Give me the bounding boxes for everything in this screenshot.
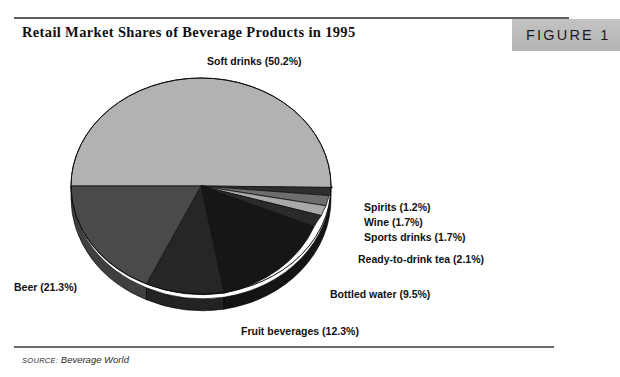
pie-chart-svg — [0, 0, 620, 340]
pie-chart: Soft drinks (50.2%) Beer (21.3%) Fruit b… — [0, 0, 620, 340]
label-spirits: Spirits (1.2%) — [364, 201, 431, 213]
label-beer: Beer (21.3%) — [14, 281, 77, 293]
label-sports-drinks: Sports drinks (1.7%) — [364, 231, 466, 243]
source-line: SOURCE: Beverage World — [22, 354, 129, 365]
label-wine: Wine (1.7%) — [364, 216, 423, 228]
source-key: SOURCE: — [22, 356, 58, 365]
label-ready-to-drink-tea: Ready-to-drink tea (2.1%) — [358, 253, 484, 265]
label-bottled-water: Bottled water (9.5%) — [330, 288, 430, 300]
figure-panel: FIGURE 1 Retail Market Shares of Beverag… — [0, 0, 620, 377]
label-soft-drinks: Soft drinks (50.2%) — [207, 55, 302, 67]
bottom-divider — [14, 346, 554, 348]
slice-soft-drinks[interactable] — [71, 78, 333, 187]
label-fruit-beverages: Fruit beverages (12.3%) — [241, 325, 359, 337]
source-value: Beverage World — [61, 354, 129, 365]
